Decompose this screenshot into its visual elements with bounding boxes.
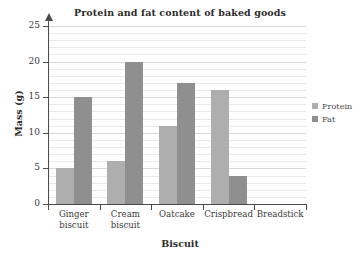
y-axis-tick-label: 5 <box>14 162 40 172</box>
bar-protein-ginger-biscuit <box>56 168 74 204</box>
legend-label: Protein <box>322 101 352 111</box>
chart-title: Protein and fat content of baked goods <box>60 8 300 18</box>
legend-swatch-icon <box>312 116 318 122</box>
gridline-minor <box>48 76 306 77</box>
y-axis-tick-label: 0 <box>14 198 40 208</box>
x-axis-label-breadstick: Breadstick <box>250 209 310 220</box>
y-axis-tick-labels: 0510152025 <box>8 0 40 262</box>
y-axis-tick-label: 10 <box>14 127 40 137</box>
y-axis-tick <box>43 97 49 98</box>
gridline-minor <box>48 40 306 41</box>
legend-item-protein[interactable]: Protein <box>312 101 362 111</box>
legend-label: Fat <box>322 114 335 124</box>
y-axis-line <box>48 20 49 205</box>
legend-item-fat[interactable]: Fat <box>312 114 362 124</box>
y-axis-tick <box>43 133 49 134</box>
gridline-minor <box>48 47 306 48</box>
gridline-major <box>48 26 306 27</box>
gridline-minor <box>48 54 306 55</box>
y-axis-tick <box>43 26 49 27</box>
bar-chart: Protein and fat content of baked goods M… <box>0 0 364 262</box>
y-axis-tick-label: 15 <box>14 91 40 101</box>
gridline-major <box>48 62 306 63</box>
y-axis-tick-label: 20 <box>14 56 40 66</box>
plot-area <box>48 26 306 204</box>
x-axis-line <box>48 204 307 205</box>
y-axis-tick-label: 25 <box>14 20 40 30</box>
y-axis-arrow-icon <box>45 13 53 21</box>
bar-protein-oatcake <box>159 126 177 204</box>
bar-protein-crispbread <box>211 90 229 204</box>
bar-protein-cream-biscuit <box>107 161 125 204</box>
bar-fat-cream-biscuit <box>125 62 143 204</box>
legend-swatch-icon <box>312 103 318 109</box>
x-axis-title: Biscuit <box>60 238 300 249</box>
gridline-minor <box>48 69 306 70</box>
bar-fat-ginger-biscuit <box>74 97 92 204</box>
gridline-minor <box>48 33 306 34</box>
y-axis-tick <box>43 62 49 63</box>
bar-fat-crispbread <box>229 176 247 204</box>
bar-fat-oatcake <box>177 83 195 204</box>
chart-legend: ProteinFat <box>312 101 362 127</box>
y-axis-tick <box>43 168 49 169</box>
